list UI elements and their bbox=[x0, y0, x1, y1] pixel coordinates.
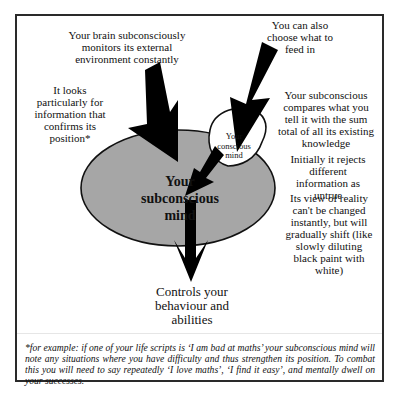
conscious-mind-label: Your conscious mind bbox=[209, 132, 259, 161]
label-looks-for: It looks particularly for information th… bbox=[28, 84, 112, 144]
label-compares: Your subconscious compares what you tell… bbox=[278, 89, 374, 149]
footnote: *for example: if one of your life script… bbox=[25, 342, 375, 386]
label-brain-monitors: Your brain subconsciously monitors its e… bbox=[62, 29, 192, 65]
label-choose-feed: You can also choose what to feed in bbox=[264, 19, 336, 55]
label-controls: Controls your behaviour and abilities bbox=[150, 285, 234, 327]
label-view-reality: Its view of reality can't be changed ins… bbox=[285, 192, 373, 276]
subconscious-mind-label: Your subconscious mind bbox=[128, 173, 232, 224]
